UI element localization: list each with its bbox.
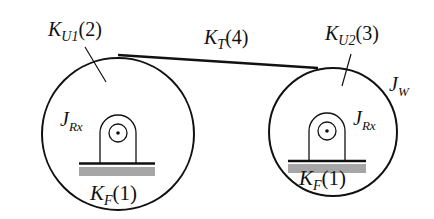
kf-right-label: KF(1) (298, 166, 346, 193)
kt-label: KT(4) (203, 26, 248, 52)
kf-left-label: KF(1) (89, 181, 137, 208)
ku1-label: KU1(2) (47, 18, 102, 44)
belt-line (118, 55, 318, 68)
belt-drive-diagram: KU1(2) KT(4) KU2(3) JW JRx JRx KF(1) KF(… (0, 0, 434, 219)
jrx-right-label: JRx (353, 107, 376, 133)
left-bearing (79, 115, 155, 176)
jw-label: JW (389, 73, 410, 99)
jrx-left-label: JRx (60, 108, 83, 134)
ku2-label: KU2(3) (324, 22, 379, 48)
